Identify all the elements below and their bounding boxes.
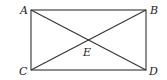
label-d: D: [148, 65, 158, 78]
diagram-canvas: A B C D E: [0, 0, 167, 80]
label-b: B: [149, 4, 158, 17]
label-e: E: [82, 46, 91, 59]
label-a: A: [19, 4, 28, 17]
label-c: C: [19, 65, 28, 78]
